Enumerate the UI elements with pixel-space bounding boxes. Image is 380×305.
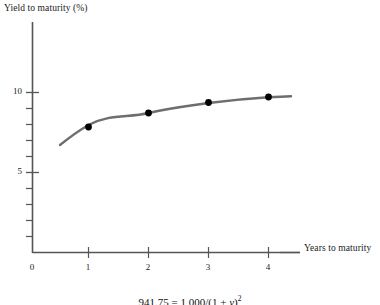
formula-exponent: 2 (238, 294, 242, 303)
data-point (85, 124, 92, 131)
x-tick-label-3: 3 (200, 262, 216, 272)
data-point (265, 94, 272, 101)
x-tick-label-4: 4 (260, 262, 276, 272)
y-tick-label-10: 10 (0, 86, 22, 96)
plot-area (0, 0, 380, 305)
x-axis-title: Years to maturity (304, 243, 371, 253)
x-tick-label-0: 0 (24, 262, 40, 272)
yield-formula-caption: 941.75 = 1,000/(1 + y)2 (0, 294, 380, 305)
chart-figure: Yield to maturity (%) Years to maturity … (0, 0, 380, 305)
y-axis-title: Yield to maturity (%) (4, 3, 88, 13)
formula-prefix: 941.75 = 1,000/(1 + (139, 296, 230, 305)
x-tick-label-2: 2 (140, 262, 156, 272)
data-point (205, 99, 212, 106)
y-tick-label-5: 5 (0, 166, 22, 176)
yield-curve-line (60, 96, 291, 145)
x-tick-label-1: 1 (80, 262, 96, 272)
data-point (145, 110, 152, 117)
